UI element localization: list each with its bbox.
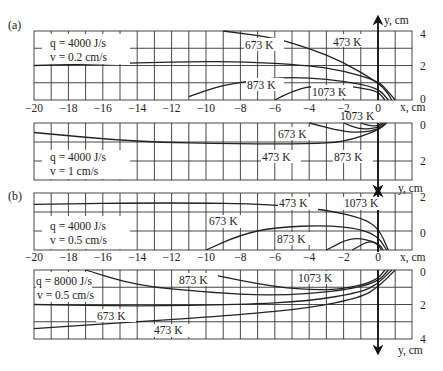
svg-text:−20: −20 — [25, 102, 43, 114]
svg-text:673 K: 673 K — [278, 128, 307, 140]
svg-text:673 K: 673 K — [97, 310, 126, 322]
svg-text:1073 K: 1073 K — [312, 86, 347, 98]
svg-text:0: 0 — [420, 119, 426, 131]
svg-text:1073 K: 1073 K — [344, 197, 379, 209]
svg-text:473 K: 473 K — [262, 151, 291, 163]
svg-text:0: 0 — [420, 227, 426, 239]
panel-label-a: (a) — [8, 18, 21, 32]
isotherm-873k — [189, 78, 389, 100]
legend-b1: q = 4000 J/s v = 0.5 cm/s — [42, 216, 130, 249]
svg-text:−10: −10 — [197, 102, 215, 114]
x-axis-label-b: x, cm — [400, 251, 426, 264]
svg-text:−14: −14 — [128, 251, 146, 263]
svg-text:2: 2 — [420, 191, 426, 203]
svg-text:−6: −6 — [269, 251, 281, 263]
x-tick-labels-b: −20−18−16−14−12−10−8−6−4−20 — [25, 251, 381, 263]
svg-text:473 K: 473 K — [154, 324, 183, 336]
svg-text:473 K: 473 K — [333, 36, 362, 48]
svg-text:v = 1 cm/s: v = 1 cm/s — [50, 165, 99, 177]
svg-text:673 K: 673 K — [245, 39, 274, 51]
svg-text:−10: −10 — [197, 251, 215, 263]
y-axis-label-a1: y, cm — [384, 14, 409, 27]
svg-text:873 K: 873 K — [179, 274, 208, 286]
svg-text:2: 2 — [420, 60, 426, 72]
x-tick-labels-a: −20−18−16−14−12−10−8−6−4−20 — [25, 102, 381, 114]
svg-text:2: 2 — [420, 299, 426, 311]
svg-text:−4: −4 — [303, 251, 315, 263]
svg-text:873 K: 873 K — [247, 79, 276, 91]
svg-text:q = 4000 J/s: q = 4000 J/s — [50, 220, 107, 233]
legend-a2: q = 4000 J/s v = 1 cm/s — [42, 150, 130, 179]
svg-text:4: 4 — [420, 333, 426, 345]
svg-text:v = 0.2 cm/s: v = 0.2 cm/s — [50, 51, 107, 63]
svg-text:−16: −16 — [94, 102, 112, 114]
panel-label-b: (b) — [8, 189, 22, 203]
svg-text:−8: −8 — [234, 251, 246, 263]
svg-text:q = 8000 J/s: q = 8000 J/s — [36, 275, 93, 288]
svg-text:−2: −2 — [337, 251, 349, 263]
svg-text:1073 K: 1073 K — [298, 272, 333, 284]
svg-text:1073 K: 1073 K — [340, 110, 375, 122]
svg-text:−16: −16 — [94, 251, 112, 263]
isotherm-figure: (a) (b) q = 4000 J/s v = 0.2 cm/s q = 40… — [0, 0, 443, 371]
svg-text:v = 0.5 cm/s: v = 0.5 cm/s — [50, 234, 107, 246]
y-axis-label-b2: y, cm — [398, 344, 423, 357]
legend-a1: q = 4000 J/s v = 0.2 cm/s — [42, 34, 130, 64]
svg-text:−6: −6 — [269, 102, 281, 114]
svg-text:473 K: 473 K — [279, 197, 308, 209]
svg-text:q = 4000 J/s: q = 4000 J/s — [50, 151, 107, 164]
svg-text:−12: −12 — [163, 102, 181, 114]
svg-text:−18: −18 — [59, 251, 77, 263]
svg-text:873 K: 873 K — [277, 233, 306, 245]
svg-text:−18: −18 — [59, 102, 77, 114]
svg-text:−20: −20 — [25, 251, 43, 263]
svg-text:0: 0 — [420, 266, 426, 278]
svg-text:673 K: 673 K — [209, 215, 238, 227]
svg-text:0: 0 — [375, 251, 381, 263]
svg-text:−4: −4 — [303, 102, 315, 114]
svg-text:−8: −8 — [234, 102, 246, 114]
svg-text:q = 4000 J/s: q = 4000 J/s — [50, 37, 107, 50]
svg-text:2: 2 — [420, 155, 426, 167]
legend-b2: q = 8000 J/s v = 0.5 cm/s — [36, 272, 94, 302]
svg-text:v = 0.5 cm/s: v = 0.5 cm/s — [37, 289, 94, 301]
svg-text:−12: −12 — [163, 251, 181, 263]
svg-text:873 K: 873 K — [334, 151, 363, 163]
svg-text:−14: −14 — [128, 102, 146, 114]
isotherm-473k — [34, 123, 387, 144]
svg-text:0: 0 — [420, 93, 426, 105]
svg-text:0: 0 — [375, 102, 381, 114]
isotherm-873k — [86, 270, 389, 295]
svg-text:4: 4 — [420, 28, 426, 40]
